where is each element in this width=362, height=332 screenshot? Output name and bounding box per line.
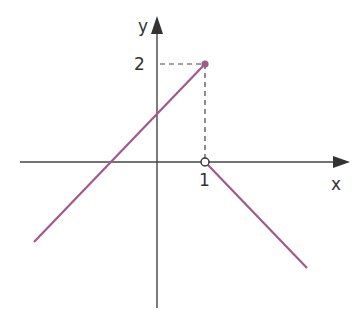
y-axis-label: y <box>138 16 148 36</box>
function-graph: y x 2 1 <box>0 0 362 332</box>
open-endpoint <box>201 158 209 166</box>
x-tick-label: 1 <box>199 170 210 190</box>
left-branch-line <box>34 64 205 242</box>
right-branch-line <box>208 165 307 268</box>
closed-endpoint <box>201 60 208 67</box>
y-axis-arrow-icon <box>151 16 163 34</box>
y-tick-label: 2 <box>134 54 145 74</box>
x-axis-arrow-icon <box>333 156 350 168</box>
x-axis-label: x <box>331 174 341 194</box>
